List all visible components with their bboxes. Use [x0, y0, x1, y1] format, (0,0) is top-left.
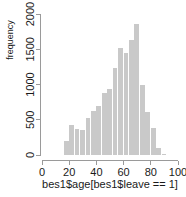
histogram-figure: 0500100015002000 020406080100 bes1$age[b… — [0, 0, 186, 197]
histogram-bar — [86, 118, 91, 155]
histogram-bar — [107, 89, 112, 155]
histogram-bar — [96, 106, 101, 155]
histogram-bar — [118, 48, 123, 155]
y-tick-label: 2000 — [24, 2, 36, 26]
x-tick-label: 100 — [169, 166, 186, 178]
x-axis-title: bes1$age[bes1$leave == 1] — [42, 178, 178, 190]
histogram-bar — [75, 129, 80, 155]
histogram-bar — [102, 93, 107, 155]
x-ticks-group: 020406080100 — [39, 161, 186, 179]
y-tick-label: 500 — [24, 111, 36, 129]
histogram-bar — [156, 148, 161, 155]
y-ticks-group: 0500100015002000 — [24, 2, 41, 158]
histogram-bar — [80, 130, 85, 155]
y-tick-label: 1500 — [24, 37, 36, 61]
y-axis-title: frequency — [5, 20, 15, 60]
histogram-bar — [129, 40, 134, 155]
x-tick-label: 20 — [63, 166, 75, 178]
histogram-bar — [134, 24, 139, 155]
y-tick-label: 1000 — [24, 72, 36, 96]
histogram-bar — [91, 111, 96, 155]
histogram-bar — [113, 68, 118, 155]
histogram-bar — [124, 53, 129, 155]
histogram-bar — [64, 141, 69, 155]
histogram-bar — [69, 125, 74, 155]
histogram-plot-area: 0500100015002000 020406080100 bes1$age[b… — [0, 0, 186, 197]
histogram-bar — [140, 85, 145, 155]
x-tick-label: 0 — [39, 166, 45, 178]
x-tick-label: 60 — [117, 166, 129, 178]
x-tick-label: 40 — [90, 166, 102, 178]
histogram-bar — [151, 128, 156, 155]
x-tick-label: 80 — [145, 166, 157, 178]
histogram-bar — [145, 112, 150, 155]
y-tick-label: 0 — [24, 152, 36, 158]
bars-group — [64, 24, 167, 155]
histogram-bar — [162, 154, 167, 155]
